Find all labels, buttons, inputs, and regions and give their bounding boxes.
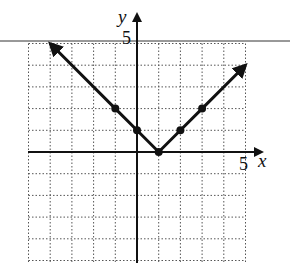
x-tick-label-5: 5: [239, 154, 248, 175]
graph-line: [50, 44, 245, 153]
data-point: [133, 126, 141, 134]
x-axis-label: x: [258, 150, 266, 172]
data-point: [198, 105, 206, 113]
y-tick-label-5: 5: [122, 28, 131, 49]
data-point: [111, 105, 119, 113]
data-point: [176, 126, 184, 134]
graph-plot: [0, 0, 290, 263]
y-axis-label: y: [118, 6, 126, 28]
function-graph: [50, 44, 245, 157]
data-point: [155, 148, 163, 156]
